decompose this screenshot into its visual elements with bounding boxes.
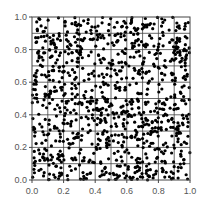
data-point [100, 21, 103, 24]
data-point [105, 108, 108, 111]
data-point [145, 165, 148, 168]
data-point [130, 156, 133, 159]
data-point [124, 99, 127, 102]
data-point [149, 131, 152, 134]
data-point [176, 169, 179, 172]
data-point [123, 150, 126, 153]
data-point [43, 30, 46, 33]
data-point [100, 61, 103, 64]
data-point [131, 77, 134, 80]
data-point [33, 164, 36, 167]
data-point [172, 108, 175, 111]
data-point [127, 151, 130, 154]
data-point [187, 121, 190, 124]
data-point [92, 69, 95, 72]
data-point [38, 122, 41, 125]
data-point [159, 126, 162, 129]
data-point [72, 137, 75, 140]
data-point [102, 76, 105, 79]
data-point [176, 140, 179, 143]
data-point [115, 72, 118, 75]
data-point [70, 82, 73, 85]
data-point [155, 57, 158, 60]
data-point [145, 93, 148, 96]
data-point [180, 59, 183, 62]
data-point [41, 155, 44, 158]
data-point [117, 115, 120, 118]
data-point [145, 156, 148, 159]
data-point [40, 125, 43, 128]
data-point [110, 125, 113, 128]
data-point [79, 148, 82, 151]
data-point [116, 164, 119, 167]
data-point [114, 84, 117, 87]
data-point [70, 87, 73, 90]
data-point [54, 61, 57, 64]
data-point [87, 160, 90, 163]
data-point [41, 130, 44, 133]
data-point [33, 150, 36, 153]
data-point [32, 156, 35, 159]
data-point [94, 45, 97, 48]
data-point [98, 58, 101, 61]
data-point [41, 46, 44, 49]
data-point [51, 38, 54, 41]
data-point [111, 41, 114, 44]
data-point [120, 112, 123, 115]
data-point [141, 76, 144, 79]
data-point [53, 108, 56, 111]
data-point [175, 42, 178, 45]
data-point [157, 42, 160, 45]
data-point [52, 173, 55, 176]
data-point [173, 165, 176, 168]
data-point [103, 97, 106, 100]
data-point [69, 122, 72, 125]
data-point [35, 93, 38, 96]
data-point [136, 144, 139, 147]
data-point [173, 103, 176, 106]
data-point [38, 152, 41, 155]
data-point [62, 140, 65, 143]
data-point [119, 32, 122, 35]
data-point [116, 176, 119, 179]
data-point [184, 43, 187, 46]
data-point [62, 158, 65, 161]
data-point [75, 112, 78, 115]
data-point [40, 142, 43, 145]
data-point [143, 57, 146, 60]
data-point [122, 140, 125, 143]
data-point [160, 17, 163, 20]
data-point [81, 67, 84, 70]
data-point [74, 41, 77, 44]
data-point [40, 56, 43, 59]
data-point [114, 122, 117, 125]
data-point [66, 30, 69, 33]
data-point [64, 92, 67, 95]
data-point [142, 146, 145, 149]
data-point [132, 33, 135, 36]
data-point [90, 32, 93, 35]
data-point [63, 122, 66, 125]
data-point [48, 78, 51, 81]
data-point [104, 121, 107, 124]
data-point [88, 172, 91, 175]
data-point [155, 106, 158, 109]
data-point [122, 172, 125, 175]
data-point [43, 159, 46, 162]
data-point [33, 134, 36, 137]
data-point [77, 132, 80, 135]
data-point [174, 76, 177, 79]
data-point [91, 113, 94, 116]
data-point [137, 106, 140, 109]
data-point [160, 160, 163, 163]
data-point [52, 69, 55, 72]
data-point [49, 128, 52, 131]
data-point [161, 31, 164, 34]
data-point [69, 111, 72, 114]
data-point [157, 90, 160, 93]
data-point [96, 33, 99, 36]
data-point [108, 172, 111, 175]
data-point [95, 146, 98, 149]
data-point [170, 151, 173, 154]
data-point [142, 111, 145, 114]
